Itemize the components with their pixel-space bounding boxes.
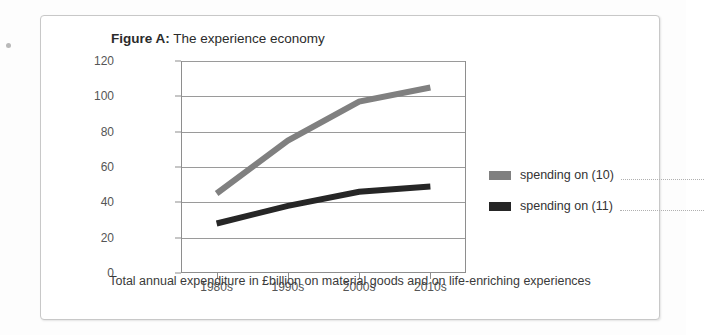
gridline — [182, 96, 465, 97]
figure-panel: Figure A: The experience economy 0204060… — [40, 15, 660, 320]
gridline — [182, 202, 465, 203]
y-axis-tick-mark — [175, 167, 181, 168]
y-axis-tick-mark — [175, 61, 181, 62]
y-axis-tick-label: 40 — [101, 195, 114, 209]
legend-item: spending on (10) — [489, 168, 704, 182]
gridline — [182, 61, 465, 62]
legend-answer-blank-11[interactable] — [620, 209, 704, 211]
legend-label-series-2: spending on (11) — [520, 199, 613, 213]
decorative-dot — [6, 43, 11, 48]
line-chart: 020406080100120 1980s1990s2000s2010s — [101, 58, 486, 306]
figure-caption: Total annual expenditure in £billion on … — [41, 274, 659, 288]
y-axis-tick-mark — [175, 131, 181, 132]
y-axis-tick-label: 120 — [94, 54, 114, 68]
chart-legend: spending on (10) spending on (11) — [489, 168, 704, 230]
y-axis-tick-label: 60 — [101, 160, 114, 174]
figure-title-text: The experience economy — [170, 31, 325, 46]
legend-swatch-series-2 — [489, 202, 511, 211]
y-axis-tick-mark — [175, 202, 181, 203]
gridline — [182, 132, 465, 133]
legend-label-series-1: spending on (10) — [520, 168, 614, 182]
y-axis-tick-label: 80 — [101, 125, 114, 139]
y-axis-tick-mark — [175, 96, 181, 97]
figure-label: Figure A: — [111, 31, 170, 46]
figure-title: Figure A: The experience economy — [111, 31, 325, 46]
gridline — [182, 167, 465, 168]
legend-item: spending on (11) — [489, 199, 704, 213]
legend-swatch-series-1 — [489, 171, 511, 180]
y-axis-tick-label: 20 — [101, 231, 114, 245]
plot-area — [181, 61, 466, 273]
y-axis-tick-mark — [175, 237, 181, 238]
y-axis-tick-label: 100 — [94, 89, 114, 103]
legend-answer-blank-10[interactable] — [621, 178, 704, 180]
gridline — [182, 238, 465, 239]
